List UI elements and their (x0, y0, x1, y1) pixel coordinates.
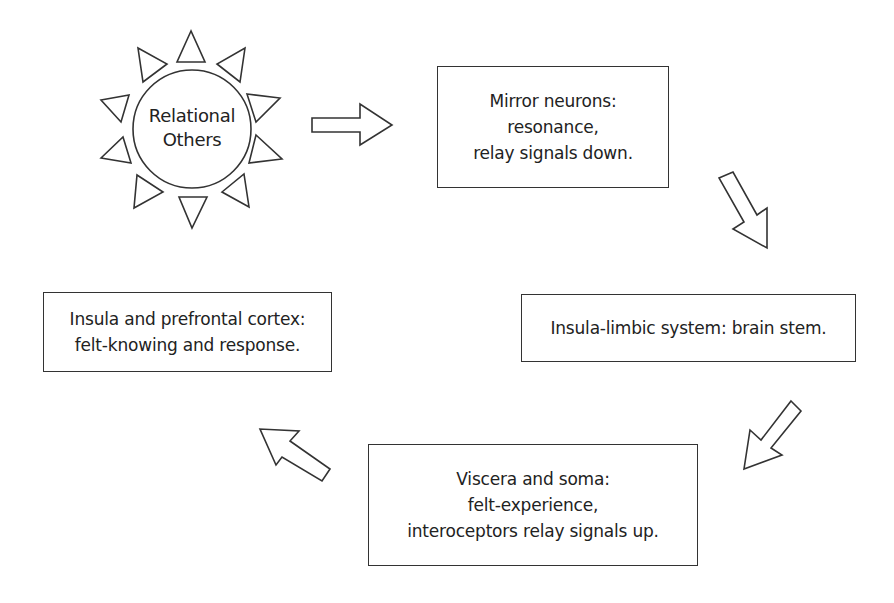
arrow-down-right-icon (719, 172, 767, 248)
viscera-soma-line-3: interoceptors relay signals up. (407, 518, 659, 544)
insula-prefrontal-line-1: Insula and prefrontal cortex: (70, 306, 306, 332)
sun-ray-bottom (179, 197, 207, 228)
mirror-neurons-line-1: Mirror neurons: (490, 88, 617, 114)
sun-ray-left-lower (101, 137, 131, 163)
sun-ray-right-lower (249, 135, 282, 163)
sun-ray-left-upper (101, 95, 129, 122)
sun-ray-top (177, 31, 205, 62)
mirror-neurons-box: Mirror neurons: resonance, relay signals… (437, 66, 669, 188)
arrow-right-icon (312, 104, 392, 145)
arrow-up-left-icon (260, 429, 330, 481)
viscera-soma-line-1: Viscera and soma: (456, 466, 609, 492)
insula-prefrontal-line-2: felt-knowing and response. (75, 332, 300, 358)
viscera-soma-box: Viscera and soma: felt-experience, inter… (368, 444, 698, 566)
sun-ray-bottom-right (222, 174, 249, 207)
arrow-down-left-icon (744, 401, 801, 469)
insula-limbic-box: Insula-limbic system: brain stem. (521, 294, 856, 362)
sun-ray-bottom-left (134, 175, 163, 208)
mirror-neurons-line-2: resonance, (507, 114, 599, 140)
sun-label-line-2: Others (133, 128, 251, 152)
sun-ray-right-upper (247, 94, 280, 122)
sun-label-line-1: Relational (133, 104, 251, 128)
viscera-soma-line-2: felt-experience, (468, 492, 598, 518)
insula-limbic-line-1: Insula-limbic system: brain stem. (550, 315, 826, 341)
mirror-neurons-line-3: relay signals down. (473, 140, 633, 166)
relational-others-label: Relational Others (133, 104, 251, 152)
insula-prefrontal-box: Insula and prefrontal cortex: felt-knowi… (43, 292, 332, 372)
